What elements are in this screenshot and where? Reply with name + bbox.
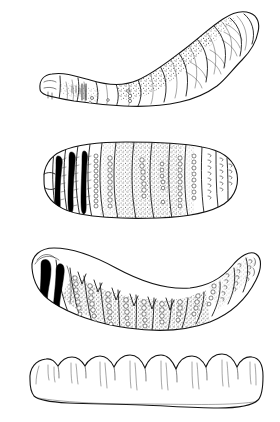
illustration-plate — [0, 0, 280, 422]
figure-3-ventral-view-larva-curved — [18, 238, 268, 342]
figure-1-lateral-view-larva — [20, 0, 280, 125]
figure-4-outline-view-larva — [18, 346, 268, 420]
figure-4-body-outline — [30, 354, 263, 408]
figure-2-ventral-view-larva-straight — [30, 134, 252, 226]
figure-2-black-spine-bands — [55, 151, 91, 214]
